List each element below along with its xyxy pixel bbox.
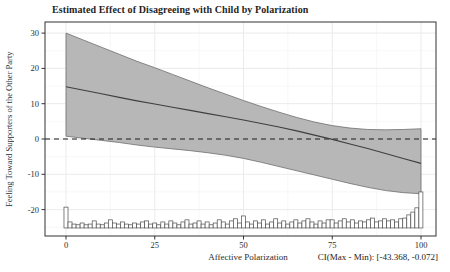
histogram-bar [100, 225, 104, 228]
histogram-bar [346, 222, 350, 228]
histogram-bar [407, 215, 411, 228]
histogram-bar [197, 221, 201, 228]
histogram-bar [145, 221, 149, 228]
histogram-bar [419, 192, 423, 228]
x-tick-label: 100 [406, 240, 436, 250]
histogram-bar [415, 208, 419, 228]
histogram-bar [64, 207, 68, 228]
histogram-bar [120, 222, 124, 228]
histogram-bar [209, 225, 213, 228]
histogram-bar [237, 223, 241, 228]
histogram-bar [262, 220, 266, 228]
histogram-bar [342, 219, 346, 228]
histogram-bar [229, 221, 233, 228]
histogram-bar [80, 223, 84, 228]
histogram-bar [217, 220, 221, 228]
histogram-bar [233, 219, 237, 228]
histogram-bar [282, 221, 286, 228]
histogram-bar [391, 220, 395, 228]
histogram-bar [185, 220, 189, 228]
histogram-bar [306, 219, 310, 228]
histogram-bar [318, 221, 322, 228]
y-tick-label: -10 [0, 169, 39, 179]
histogram-bar [189, 224, 193, 228]
histogram-bar [314, 224, 318, 228]
y-tick-label: 10 [0, 99, 39, 109]
histogram-bar [395, 222, 399, 228]
histogram-bar [116, 224, 120, 228]
histogram-bar [330, 220, 334, 228]
histogram-bar [387, 221, 391, 228]
histogram-bar [129, 225, 133, 228]
histogram-bar [266, 224, 270, 228]
histogram-bar [137, 224, 141, 228]
histogram-bar [338, 221, 342, 228]
histogram-bar [334, 223, 338, 228]
histogram-bar [141, 222, 145, 228]
histogram-bar [411, 212, 415, 228]
x-tick-label: 25 [140, 240, 170, 250]
x-tick-label: 50 [229, 240, 259, 250]
histogram-bar [354, 223, 358, 228]
histogram-bar [213, 223, 217, 228]
histogram-bar [112, 223, 116, 228]
histogram-bar [270, 222, 274, 228]
histogram-bar [96, 224, 100, 228]
histogram-bar [358, 221, 362, 228]
histogram-bar [177, 225, 181, 228]
histogram-bar [326, 220, 330, 228]
histogram-bar [72, 224, 76, 228]
histogram-bar [84, 225, 88, 228]
histogram-bar [88, 224, 92, 228]
histogram-bar [68, 222, 72, 228]
y-tick-label: 20 [0, 63, 39, 73]
histogram-bar [350, 220, 354, 228]
plot-area [0, 0, 450, 272]
histogram-bar [153, 223, 157, 228]
histogram-bar [310, 222, 314, 228]
figure: Estimated Effect of Disagreeing with Chi… [0, 0, 450, 272]
histogram-bar [241, 216, 245, 228]
histogram-bar [221, 222, 225, 228]
histogram-bar [383, 219, 387, 228]
x-tick-label: 0 [51, 240, 81, 250]
histogram-bar [362, 222, 366, 228]
histogram-bar [278, 223, 282, 228]
histogram-bar [193, 223, 197, 228]
histogram-bar [302, 221, 306, 228]
histogram-bar [294, 220, 298, 228]
histogram-bar [76, 225, 80, 228]
histogram-bar [298, 223, 302, 228]
histogram-bar [173, 223, 177, 228]
histogram-bar [290, 222, 294, 228]
histogram-bar [286, 224, 290, 228]
y-tick-label: 0 [0, 134, 39, 144]
histogram-bar [375, 222, 379, 228]
histogram-bar [322, 223, 326, 228]
y-tick-label: -20 [0, 205, 39, 215]
histogram-bar [157, 225, 161, 228]
ci-annotation: CI(Max - Min): [-43.368, -0.072] [318, 252, 438, 262]
histogram-bar [258, 223, 262, 228]
histogram-bar [245, 222, 249, 228]
histogram-bar [249, 224, 253, 228]
x-tick-label: 75 [317, 240, 347, 250]
histogram-bar [161, 222, 165, 228]
histogram-bar [92, 221, 96, 228]
histogram-bar [225, 224, 229, 228]
y-tick-label: 30 [0, 28, 39, 38]
histogram-bar [149, 224, 153, 228]
histogram-bar [403, 218, 407, 228]
histogram-bar [205, 222, 209, 228]
histogram-bar [274, 219, 278, 228]
histogram-bar [169, 221, 173, 228]
histogram-bar [201, 224, 205, 228]
histogram-bar [108, 220, 112, 228]
histogram-bar [254, 221, 258, 228]
histogram-bar [104, 223, 108, 228]
histogram-bar [165, 224, 169, 228]
histogram-bar [399, 219, 403, 228]
histogram-bar [370, 218, 374, 228]
histogram-bar [133, 223, 137, 228]
histogram-bar [379, 221, 383, 228]
